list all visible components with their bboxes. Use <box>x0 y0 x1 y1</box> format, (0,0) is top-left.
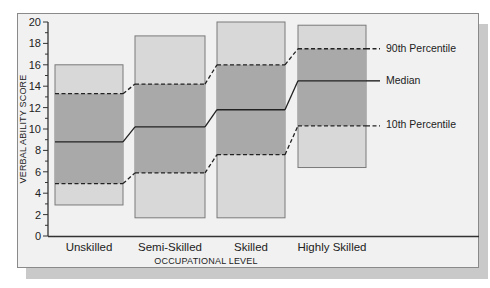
legend-label-median: Median <box>386 74 421 86</box>
y-tick-label: 2 <box>35 209 41 221</box>
legend-label-90th: 90th Percentile <box>386 42 456 54</box>
y-tick-label: 4 <box>35 187 41 199</box>
y-tick-label: 12 <box>29 102 41 114</box>
range-bar-highly-skilled <box>298 25 366 167</box>
inner-range-rect <box>299 49 366 126</box>
range-bar-skilled <box>217 22 285 218</box>
y-tick-label: 16 <box>29 59 41 71</box>
x-category-label: Semi-Skilled <box>138 241 202 253</box>
y-tick-label: 6 <box>35 166 41 178</box>
inner-range-rect <box>56 94 123 184</box>
y-tick-label: 20 <box>29 16 41 28</box>
x-category-label: Unskilled <box>66 241 113 253</box>
connector-line <box>285 49 298 65</box>
legend <box>366 49 380 126</box>
connector-line <box>123 84 135 94</box>
y-tick-label: 8 <box>35 144 41 156</box>
range-bar-semi-skilled <box>135 36 205 218</box>
connector-line <box>123 173 135 184</box>
connector-line <box>285 81 298 110</box>
connector-line <box>285 126 298 155</box>
y-tick-label: 10 <box>29 123 41 135</box>
connector-line <box>205 155 217 173</box>
legend-label-10th: 10th Percentile <box>386 118 456 130</box>
range-bar-unskilled <box>55 65 123 205</box>
inner-range-rect <box>136 84 205 173</box>
y-tick-label: 18 <box>29 37 41 49</box>
x-category-label: Highly Skilled <box>297 241 366 253</box>
chart-svg: 0 2 4 6 8 10 12 14 16 18 20 VERBAL ABILI… <box>0 0 490 288</box>
connector-line <box>205 110 217 127</box>
connector-line <box>123 127 135 142</box>
y-axis-ticks <box>43 22 48 236</box>
connector-line <box>205 65 217 84</box>
x-axis-title: OCCUPATIONAL LEVEL <box>154 256 257 266</box>
y-tick-label: 0 <box>35 230 41 242</box>
y-axis-title: VERBAL ABILITY SCORE <box>18 74 28 183</box>
x-category-label: Skilled <box>234 241 268 253</box>
y-tick-label: 14 <box>29 80 41 92</box>
